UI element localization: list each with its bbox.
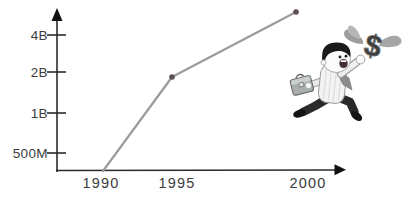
- right-eye: [345, 55, 348, 58]
- x-tick-label-1995: 1995: [158, 175, 195, 191]
- winged-dollar-icon: $: [344, 26, 402, 64]
- left-eye: [339, 56, 342, 59]
- y-tick-label-4b: 4B: [31, 28, 48, 43]
- y-axis-arrow-icon: [52, 8, 63, 21]
- teeth: [341, 60, 347, 62]
- briefcase-clasp: [299, 82, 304, 87]
- front-hand: [356, 55, 365, 64]
- chart-canvas: 4B 2B 1B 500M 1990 1995 2000 $: [0, 0, 408, 202]
- x-tick-label-2000: 2000: [289, 175, 326, 191]
- y-axis: [47, 8, 66, 172]
- series-line: [103, 12, 296, 171]
- x-tick-label-1990: 1990: [82, 175, 119, 191]
- businessman-illustration: [289, 43, 365, 123]
- ear: [321, 60, 326, 65]
- data-point-2000: [293, 9, 299, 15]
- y-tick-label-2b: 2B: [31, 65, 48, 80]
- chart-area: 4B 2B 1B 500M 1990 1995 2000 $: [0, 0, 408, 202]
- data-series: [103, 9, 299, 171]
- back-hand: [305, 82, 311, 88]
- x-axis-arrow-icon: [335, 164, 347, 175]
- x-axis-line: [56, 170, 336, 171]
- x-axis: [56, 164, 346, 175]
- y-tick-label-500m: 500M: [13, 146, 48, 161]
- data-point-1995: [169, 74, 175, 80]
- y-tick-label-1b: 1B: [31, 106, 48, 121]
